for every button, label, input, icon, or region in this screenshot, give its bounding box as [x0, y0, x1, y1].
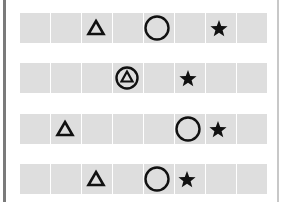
circle-icon [142, 13, 172, 47]
puzzle-row [20, 63, 266, 93]
puzzle-cell [113, 114, 143, 144]
puzzle-cell [20, 164, 50, 194]
puzzle-cell [51, 164, 81, 194]
star-icon [203, 114, 233, 148]
puzzle-cell [113, 164, 143, 194]
star-icon [173, 63, 203, 97]
puzzle-cell [144, 114, 174, 144]
puzzle-cell [237, 13, 267, 43]
puzzle-cell [82, 63, 112, 93]
puzzle-cell [237, 114, 267, 144]
puzzle-cell [206, 63, 236, 93]
circled-triangle-icon [112, 63, 142, 97]
puzzle-cell [20, 114, 50, 144]
right-border [277, 0, 279, 202]
puzzle-cell [144, 63, 174, 93]
puzzle-cell [237, 63, 267, 93]
puzzle-cell [175, 13, 205, 43]
puzzle-cell [20, 63, 50, 93]
puzzle-cell [237, 164, 267, 194]
star-icon [172, 164, 202, 198]
left-border [3, 0, 6, 202]
puzzle-cell [51, 13, 81, 43]
star-icon [204, 13, 234, 47]
triangle-icon [81, 164, 111, 198]
puzzle-cell [113, 13, 143, 43]
triangle-icon [81, 13, 111, 47]
puzzle-cell [20, 13, 50, 43]
puzzle-cell [51, 63, 81, 93]
puzzle-cell [82, 114, 112, 144]
circle-icon [142, 164, 172, 198]
circle-icon [173, 114, 203, 148]
triangle-icon [50, 114, 80, 148]
puzzle-cell [206, 164, 236, 194]
